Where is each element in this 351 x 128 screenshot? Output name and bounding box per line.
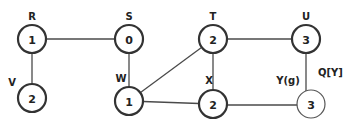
graph-diagram: 1R0S2T3U2V1W2X3Y(g) Q[Y] (0, 0, 351, 128)
edges-layer (32, 39, 306, 105)
node-value: 2 (209, 34, 217, 47)
node-label: W (115, 73, 126, 84)
node-y: 3Y(g) (275, 75, 325, 118)
node-label: T (210, 11, 217, 22)
node-label: X (205, 75, 213, 86)
node-label: R (28, 11, 36, 22)
node-label: U (302, 11, 310, 22)
node-value: 1 (125, 96, 133, 109)
node-value: 1 (28, 34, 36, 47)
node-t: 2T (199, 11, 227, 53)
node-value: 3 (302, 34, 310, 47)
annotation-q-y: Q[Y] (318, 67, 343, 78)
edge-w-t (129, 39, 213, 101)
node-s: 0S (115, 11, 143, 53)
node-r: 1R (18, 11, 46, 53)
node-value: 2 (28, 93, 36, 106)
node-v: 2V (8, 77, 46, 112)
node-label: Y(g) (275, 75, 300, 86)
node-value: 2 (209, 99, 217, 112)
node-label: S (125, 11, 132, 22)
node-value: 0 (125, 34, 133, 47)
node-label: V (8, 77, 16, 88)
node-u: 3U (292, 11, 320, 53)
node-value: 3 (307, 99, 315, 112)
